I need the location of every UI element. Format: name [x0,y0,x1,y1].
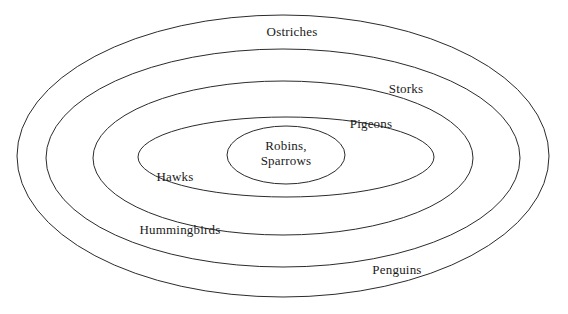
label-penguins: Penguins [372,262,421,277]
label-sparrows: Sparrows [261,153,312,168]
label-storks: Storks [389,81,423,96]
nested-ellipse-diagram: Ostriches Storks Pigeons Robins, Sparrow… [0,0,568,314]
label-robins: Robins, [265,138,307,153]
label-hawks: Hawks [156,169,193,184]
label-pigeons: Pigeons [350,116,393,131]
label-hummingbirds: Hummingbirds [139,222,220,237]
label-ostriches: Ostriches [267,24,318,39]
